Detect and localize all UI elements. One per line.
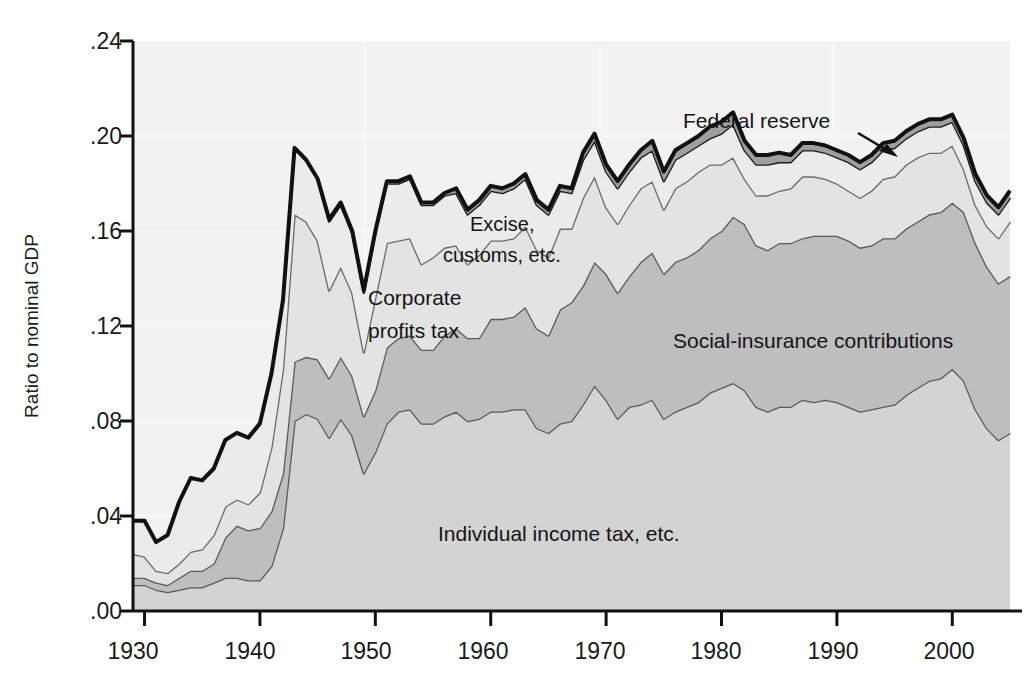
y-tick-label: .20 [90, 123, 122, 149]
x-tick-label: 1980 [690, 638, 741, 664]
x-tick-label: 1930 [107, 638, 158, 664]
y-axis-tick-labels: .24 .20 .16 .12 .08 .04 .00 [90, 28, 122, 624]
x-axis-ticks [145, 611, 953, 626]
y-tick-label: .12 [90, 313, 122, 339]
x-tick-label: 1950 [340, 638, 391, 664]
label-social-insurance: Social-insurance contributions [673, 329, 953, 352]
x-tick-label: 1990 [807, 638, 858, 664]
y-axis-title: Ratio to nominal GDP [21, 234, 42, 418]
label-individual-income: Individual income tax, etc. [438, 522, 680, 545]
y-tick-label: .04 [90, 503, 122, 529]
y-tick-label: .24 [90, 28, 122, 54]
label-corporate-line2: profits tax [368, 319, 460, 342]
x-tick-label: 1960 [457, 638, 508, 664]
label-federal-reserve: Federal reserve [683, 109, 830, 132]
x-axis-tick-labels: 1930 1940 1950 1960 1970 1980 1990 2000 [107, 638, 974, 664]
stacked-area-chart: .24 .20 .16 .12 .08 .04 .00 1930 1940 19… [0, 0, 1035, 686]
y-tick-label: .00 [90, 598, 122, 624]
x-tick-label: 1940 [224, 638, 275, 664]
y-tick-label: .16 [90, 218, 122, 244]
label-excise-line1: Excise, [470, 213, 534, 235]
label-corporate-line1: Corporate [368, 286, 461, 309]
x-tick-label: 1970 [574, 638, 625, 664]
label-excise-line2: customs, etc. [443, 244, 561, 266]
y-tick-label: .08 [90, 408, 122, 434]
x-tick-label: 2000 [923, 638, 974, 664]
chart-figure: .24 .20 .16 .12 .08 .04 .00 1930 1940 19… [0, 0, 1035, 686]
